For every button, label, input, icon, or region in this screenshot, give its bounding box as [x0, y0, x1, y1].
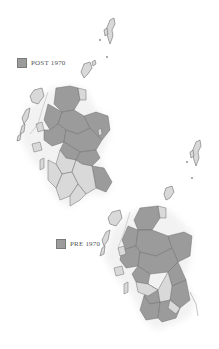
map-svg-pre-1970 [0, 0, 219, 349]
shetland-islands [186, 140, 201, 179]
orkney-islands [164, 186, 174, 200]
map-scotland-pre-1970 [0, 0, 219, 349]
